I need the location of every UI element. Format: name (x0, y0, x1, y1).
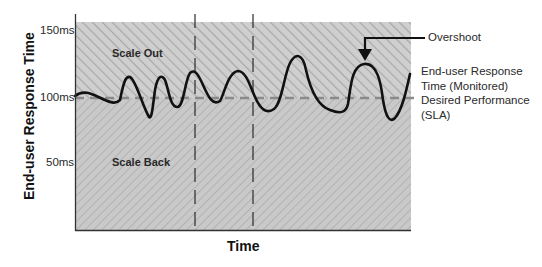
y-tick-150: 150ms (40, 24, 75, 36)
x-axis-title: Time (227, 238, 259, 254)
monitored-legend-line2: Time (Monitored) (421, 79, 508, 94)
overshoot-label: Overshoot (428, 30, 481, 45)
scale-out-region (75, 22, 411, 98)
scale-out-label: Scale Out (112, 47, 163, 59)
y-axis-title: End-user Response Time (21, 32, 37, 200)
y-tick-100: 100ms (40, 91, 75, 103)
scale-back-label: Scale Back (112, 156, 170, 168)
y-tick-50: 50ms (46, 156, 74, 168)
desired-legend-line2: (SLA) (421, 108, 450, 123)
monitored-legend-line1: End-user Response (421, 64, 523, 79)
desired-legend-line1: Desired Performance (421, 93, 530, 108)
